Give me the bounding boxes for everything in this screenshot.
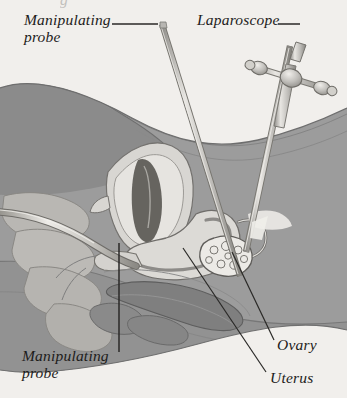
figure-illustration: g Manipulating probe Laparoscope Manipul… [0,0,347,398]
clipped-text-fragment: g [60,0,68,9]
label-laparoscope: Laparoscope [197,12,280,29]
label-ovary: Ovary [277,337,317,354]
label-manipulating-probe-bottom: Manipulating probe [22,348,109,381]
ovary [200,236,252,276]
label-uterus: Uterus [270,370,313,387]
label-manipulating-probe-top: Manipulating probe [24,12,111,45]
